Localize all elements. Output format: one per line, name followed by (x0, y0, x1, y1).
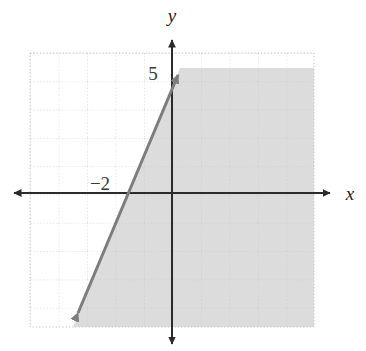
x-axis-label: x (345, 183, 355, 204)
y-axis-label: y (166, 5, 177, 26)
x-intercept-label: −2 (90, 173, 110, 194)
coordinate-plane-svg: 5 −2 y x (0, 0, 366, 351)
inequality-graph-figure: 5 −2 y x (0, 0, 366, 351)
y-intercept-label: 5 (148, 63, 158, 84)
